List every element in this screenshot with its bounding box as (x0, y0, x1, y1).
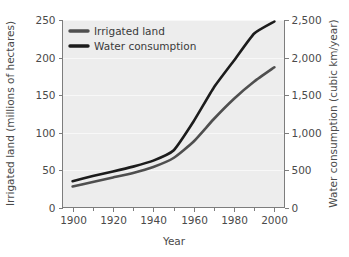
y-axis-right-tick-label: 1,000 (292, 127, 322, 139)
chart-figure: 050100150200250 05001,0001,5002,0002,500… (0, 0, 349, 257)
y-axis-right-tick-label: 1,500 (292, 89, 322, 101)
y-axis-left-title: Irrigated land (millions of hectares) (4, 21, 16, 206)
y-axis-left-tick-label: 0 (49, 202, 56, 214)
x-axis-title: Year (162, 235, 186, 247)
y-axis-right-tick-label: 0 (292, 202, 299, 214)
x-axis-tick-label: 1940 (140, 214, 167, 226)
y-axis-left-tick-label: 100 (35, 127, 55, 139)
dual-axis-line-chart: 050100150200250 05001,0001,5002,0002,500… (0, 0, 349, 257)
y-axis-left-tick-label: 200 (35, 52, 55, 64)
x-axis-tick-label: 1980 (221, 214, 248, 226)
x-axis-tick-label: 1900 (60, 214, 87, 226)
legend-label-irrigated-land: Irrigated land (94, 25, 165, 37)
y-axis-right-tick-label: 500 (292, 164, 312, 176)
legend-label-water-consumption: Water consumption (94, 40, 196, 52)
y-axis-right-tick-label: 2,000 (292, 52, 322, 64)
y-axis-right-tick-label: 2,500 (292, 14, 322, 26)
x-axis-tick-label: 2000 (261, 214, 288, 226)
y-axis-left-tick-label: 250 (35, 14, 55, 26)
y-axis-right-title: Water consumption (cubic km/year) (327, 19, 339, 207)
x-axis-tick-label: 1920 (100, 214, 127, 226)
y-axis-left-tick-label: 50 (42, 164, 55, 176)
x-axis-tick-label: 1960 (181, 214, 208, 226)
y-axis-left-tick-label: 150 (35, 89, 55, 101)
